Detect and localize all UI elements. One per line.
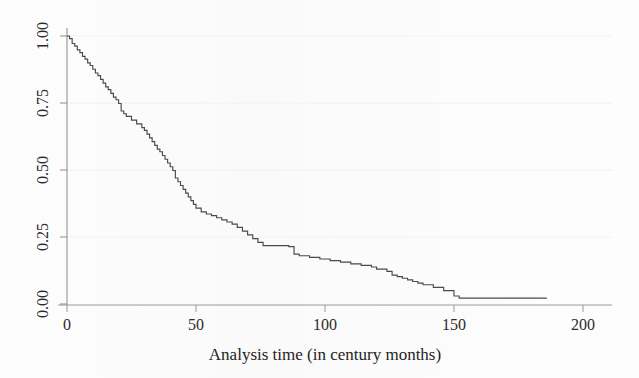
y-tick-label-0.50: 0.50 [34, 156, 51, 184]
x-tick-label-150: 150 [442, 316, 466, 333]
survival-step-line [67, 36, 547, 298]
gridlines [67, 36, 612, 237]
x-tick-label-200: 200 [571, 316, 595, 333]
y-tick-label-1.00: 1.00 [34, 22, 51, 50]
x-axis-ticks [67, 305, 583, 312]
x-tick-label-100: 100 [313, 316, 337, 333]
survival-curve-chart: 1.00 0.75 0.50 0.25 0.00 0 50 100 150 20… [0, 0, 639, 378]
chart-page: 1.00 0.75 0.50 0.25 0.00 0 50 100 150 20… [0, 0, 639, 378]
x-axis-title: Analysis time (in century months) [209, 345, 441, 364]
x-tick-label-0: 0 [63, 316, 71, 333]
x-tick-label-50: 50 [188, 316, 204, 333]
y-axis-ticks [60, 36, 67, 304]
y-tick-label-0.00: 0.00 [34, 290, 51, 318]
y-tick-label-0.25: 0.25 [34, 223, 51, 251]
y-tick-label-0.75: 0.75 [34, 89, 51, 117]
x-axis-tick-labels: 0 50 100 150 200 [63, 316, 595, 333]
y-axis-tick-labels: 1.00 0.75 0.50 0.25 0.00 [34, 22, 51, 318]
